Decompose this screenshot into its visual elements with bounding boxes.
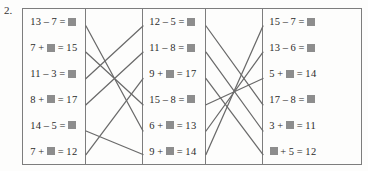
equation-token: + <box>277 120 283 131</box>
equation-token: = <box>297 68 303 79</box>
equation-token: 6 <box>149 120 155 131</box>
answer-box-icon[interactable] <box>187 95 195 103</box>
equation-token: – <box>163 16 169 27</box>
answer-box-icon[interactable] <box>187 44 195 52</box>
equation-row: 7+=15 <box>23 35 85 61</box>
answer-box-icon[interactable] <box>307 44 315 52</box>
equation-row: 3+=11 <box>263 112 326 138</box>
equation-token: 14 <box>305 68 316 79</box>
equation-token: 8 <box>30 94 36 105</box>
matching-exercise-frame: 13–7=7+=1511–3=8+=1714–5=7+=12 12–5=11–8… <box>22 8 362 165</box>
equation-token: 6 <box>291 42 297 53</box>
equation-token: – <box>162 42 168 53</box>
equation-token: = <box>179 94 185 105</box>
answer-box-icon[interactable] <box>286 70 294 78</box>
answer-box-icon[interactable] <box>68 121 76 129</box>
equation-token: 8 <box>171 94 177 105</box>
equation-token: = <box>60 120 66 131</box>
equation-token: 12 <box>149 16 160 27</box>
equation-row: 11–3= <box>23 61 85 87</box>
equation-token: + <box>280 146 286 157</box>
answer-box-icon[interactable] <box>68 70 76 78</box>
equation-token: = <box>299 42 305 53</box>
equation-token: – <box>44 120 50 131</box>
equation-token: 5 <box>52 120 58 131</box>
equation-token: = <box>299 16 305 27</box>
equation-row: 13–6= <box>263 35 326 61</box>
equation-row: 15–8= <box>143 86 205 112</box>
answer-box-icon[interactable] <box>166 70 174 78</box>
equation-token: 11 <box>30 68 41 79</box>
equation-row: 11–8= <box>143 35 205 61</box>
equation-token: + <box>157 120 163 131</box>
equation-token: + <box>157 146 163 157</box>
middle-equation-column: 12–5=11–8=9+=1715–8=6+=139+=14 <box>143 9 206 164</box>
equation-row: +5=12 <box>263 138 326 164</box>
answer-box-icon[interactable] <box>47 147 55 155</box>
answer-box-icon[interactable] <box>307 95 315 103</box>
right-matching-gap[interactable] <box>206 9 263 164</box>
equation-token: 13 <box>30 16 41 27</box>
equation-token: 15 <box>269 16 280 27</box>
answer-box-icon[interactable] <box>166 121 174 129</box>
exercise-number: 2. <box>4 4 12 16</box>
equation-token: 12 <box>305 146 316 157</box>
answer-box-icon[interactable] <box>47 44 55 52</box>
equation-token: 7 <box>291 16 297 27</box>
equation-row: 14–5= <box>23 112 85 138</box>
equation-token: 7 <box>30 146 36 157</box>
equation-token: + <box>38 146 44 157</box>
equation-row: 17–8= <box>263 86 326 112</box>
right-equation-column: 15–7=13–6=5+=1417–8=3+=11+5=12 <box>263 9 326 164</box>
equation-row: 8+=17 <box>23 86 85 112</box>
equation-token: = <box>177 68 183 79</box>
equation-token: 5 <box>289 146 295 157</box>
equation-token: = <box>297 120 303 131</box>
equation-token: 15 <box>66 42 77 53</box>
equation-token: + <box>38 94 44 105</box>
equation-row: 13–7= <box>23 9 85 35</box>
equation-row: 5+=14 <box>263 61 326 87</box>
answer-box-icon[interactable] <box>166 147 174 155</box>
equation-token: = <box>60 16 66 27</box>
equation-token: 15 <box>149 94 160 105</box>
equation-token: 17 <box>185 68 196 79</box>
equation-token: 3 <box>51 68 57 79</box>
equation-token: = <box>59 68 65 79</box>
equation-token: = <box>177 146 183 157</box>
worksheet-page: 2. 13–7=7+=1511–3=8+=1714–5=7+=12 12–5=1… <box>0 0 368 171</box>
equation-token: – <box>283 42 289 53</box>
equation-token: 3 <box>269 120 275 131</box>
equation-row: 15–7= <box>263 9 326 35</box>
equation-token: 11 <box>305 120 316 131</box>
equation-token: = <box>299 94 305 105</box>
answer-box-icon[interactable] <box>187 18 195 26</box>
equation-token: 14 <box>185 146 196 157</box>
equation-row: 9+=17 <box>143 61 205 87</box>
equation-token: 13 <box>185 120 196 131</box>
equation-token: – <box>43 68 49 79</box>
equation-token: + <box>277 68 283 79</box>
answer-box-icon[interactable] <box>68 18 76 26</box>
equation-token: – <box>283 94 289 105</box>
equation-token: 9 <box>149 68 155 79</box>
equation-row: 7+=12 <box>23 138 85 164</box>
equation-token: 8 <box>170 42 176 53</box>
left-matching-gap[interactable] <box>86 9 143 164</box>
answer-box-icon[interactable] <box>270 147 278 155</box>
equation-token: = <box>297 146 303 157</box>
equation-token: = <box>177 120 183 131</box>
equation-token: 5 <box>171 16 177 27</box>
equation-row: 12–5= <box>143 9 205 35</box>
answer-box-icon[interactable] <box>307 18 315 26</box>
equation-token: 8 <box>291 94 297 105</box>
equation-token: 9 <box>149 146 155 157</box>
answer-box-icon[interactable] <box>286 121 294 129</box>
answer-box-icon[interactable] <box>47 95 55 103</box>
equation-token: 13 <box>269 42 280 53</box>
equation-token: 7 <box>30 42 36 53</box>
equation-token: 12 <box>66 146 77 157</box>
equation-row: 9+=14 <box>143 138 205 164</box>
equation-token: – <box>44 16 50 27</box>
left-equation-column: 13–7=7+=1511–3=8+=1714–5=7+=12 <box>23 9 86 164</box>
